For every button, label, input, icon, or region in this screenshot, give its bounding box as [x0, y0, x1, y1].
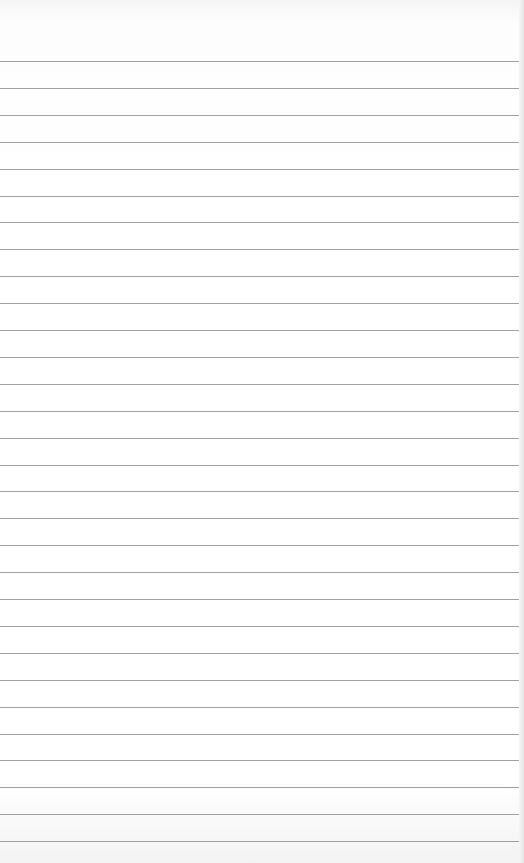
ruled-line	[0, 545, 520, 546]
lined-paper-page	[0, 0, 524, 863]
ruled-line	[0, 814, 520, 815]
ruled-line	[0, 734, 520, 735]
ruled-line	[0, 438, 520, 439]
ruled-line	[0, 626, 520, 627]
ruled-line	[0, 760, 520, 761]
ruled-line	[0, 196, 520, 197]
ruled-line	[0, 653, 520, 654]
ruled-line	[0, 222, 520, 223]
ruled-line	[0, 680, 520, 681]
ruled-line	[0, 303, 520, 304]
ruled-line	[0, 142, 520, 143]
ruled-line	[0, 61, 520, 62]
ruled-line	[0, 357, 520, 358]
ruled-line	[0, 572, 520, 573]
ruled-line	[0, 249, 520, 250]
ruled-line	[0, 330, 520, 331]
ruled-line	[0, 115, 520, 116]
paper-edge	[519, 0, 524, 863]
ruled-line	[0, 787, 520, 788]
ruled-line	[0, 276, 520, 277]
ruled-line	[0, 841, 520, 842]
ruled-line	[0, 384, 520, 385]
ruled-line	[0, 707, 520, 708]
ruled-line	[0, 411, 520, 412]
ruled-line	[0, 599, 520, 600]
ruled-line	[0, 491, 520, 492]
ruled-line	[0, 518, 520, 519]
ruled-line	[0, 169, 520, 170]
ruled-line	[0, 88, 520, 89]
ruled-line	[0, 465, 520, 466]
